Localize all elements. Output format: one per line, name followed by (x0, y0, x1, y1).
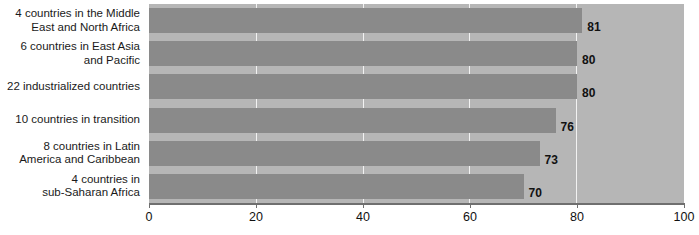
x-axis-tick-label: 80 (570, 210, 584, 224)
category-label: 4 countries in the Middle East and North… (0, 7, 140, 34)
bar-value-label: 70 (529, 187, 542, 199)
x-axis-tick-label: 0 (146, 210, 153, 224)
x-axis-tick (577, 203, 578, 208)
x-axis-tick (363, 203, 364, 208)
x-axis-tick-label: 100 (674, 210, 695, 224)
category-axis-labels: 4 countries in the Middle East and North… (0, 4, 146, 203)
bar (149, 108, 556, 133)
category-label: 22 industrialized countries (0, 80, 140, 94)
x-axis-tick-label: 20 (249, 210, 263, 224)
bar-value-label: 73 (545, 154, 558, 166)
bar (149, 41, 577, 66)
category-label: 6 countries in East Asia and Pacific (0, 40, 140, 67)
plot-area: 81 80 80 76 73 70 (149, 4, 684, 203)
bar-value-label: 76 (561, 121, 574, 133)
x-axis-tick (256, 203, 257, 208)
x-axis-tick-label: 40 (356, 210, 370, 224)
bar (149, 8, 582, 33)
x-axis-tick (684, 203, 685, 208)
category-label: 8 countries in Latin America and Caribbe… (0, 140, 140, 167)
x-axis-tick (470, 203, 471, 208)
gridline (576, 4, 577, 203)
bar-value-label: 80 (582, 87, 595, 99)
x-axis-line (149, 203, 685, 205)
category-label: 10 countries in transition (0, 113, 140, 127)
bar-value-label: 80 (582, 54, 595, 66)
bar (149, 174, 524, 199)
x-axis-tick-label: 60 (463, 210, 477, 224)
bar (149, 141, 540, 166)
bar-value-label: 81 (587, 21, 600, 33)
x-axis-tick (149, 203, 150, 208)
category-label: 4 countries in sub-Saharan Africa (0, 173, 140, 200)
bar-chart: 4 countries in the Middle East and North… (0, 0, 699, 235)
bar (149, 74, 577, 99)
